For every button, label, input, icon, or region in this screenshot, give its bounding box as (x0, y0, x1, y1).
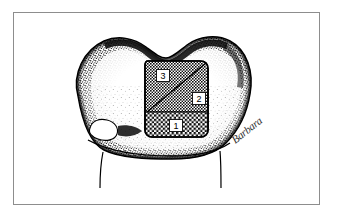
tooth-root-line-distal (220, 151, 221, 188)
tooth-mesiobuccal-cusp-pocket (89, 119, 117, 140)
cavity-zone-3-label: 3 (156, 69, 170, 82)
cavity-zone-2-label: 2 (192, 92, 206, 105)
figure-root: 3 2 1 Barbara (0, 0, 341, 218)
cavity-zone-1-label: 1 (169, 119, 183, 132)
dental-illustration-canvas (0, 0, 341, 218)
tooth-root-line-mesial (100, 152, 103, 188)
